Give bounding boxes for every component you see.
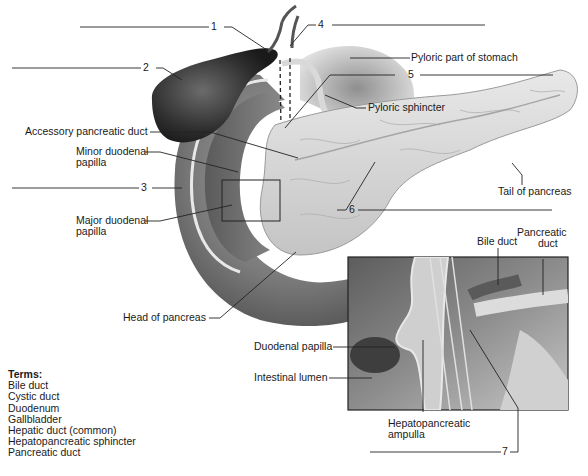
label-intestinal-lumen: Intestinal lumen <box>254 372 328 383</box>
blank-label-7: 7 <box>502 446 508 457</box>
term-item: Pancreatic duct <box>8 447 136 458</box>
label-accessory-pancreatic-duct: Accessory pancreatic duct <box>25 126 148 137</box>
label-pancreatic-duct: Pancreatic duct <box>517 227 567 249</box>
label-bile-duct: Bile duct <box>477 236 517 247</box>
label-tail-of-pancreas: Tail of pancreas <box>498 186 572 197</box>
blank-label-4: 4 <box>318 19 324 30</box>
label-major-duodenal-papilla: Major duodenal papilla <box>76 215 148 237</box>
label-pyloric-sphincter: Pyloric sphincter <box>368 102 445 113</box>
biliary-ducts <box>268 6 298 52</box>
blank-label-5: 5 <box>408 69 414 80</box>
label-hepatopancreatic-ampulla: Hepatopancreatic ampulla <box>388 418 470 440</box>
label-pyloric-part-of-stomach: Pyloric part of stomach <box>411 52 518 63</box>
label-duodenal-papilla: Duodenal papilla <box>254 341 332 352</box>
blank-label-1: 1 <box>211 21 217 32</box>
inset-enlarged-view <box>348 257 568 410</box>
terms-list: Terms: Bile duct Cystic duct Duodenum Ga… <box>8 369 136 459</box>
blank-label-2: 2 <box>143 62 149 73</box>
blank-label-3: 3 <box>141 182 147 193</box>
term-item: Cystic duct <box>8 391 136 402</box>
label-minor-duodenal-papilla: Minor duodenal papilla <box>76 146 148 168</box>
blank-label-6: 6 <box>349 204 355 215</box>
label-head-of-pancreas: Head of pancreas <box>123 312 206 323</box>
